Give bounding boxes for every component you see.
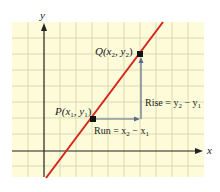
slope-diagram: x y Q(x2, y2) P(x1, y1) Run = x2 − x1 Ri… [0, 0, 220, 192]
y-axis-label: y [39, 9, 45, 21]
point-q-marker [137, 51, 143, 57]
x-axis-label: x [206, 144, 212, 156]
